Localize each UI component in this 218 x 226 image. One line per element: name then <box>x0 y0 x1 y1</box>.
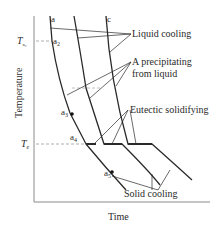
annotation-liquid-cooling: Liquid cooling <box>132 28 191 39</box>
curve-a <box>50 16 126 190</box>
leader-solid-3 <box>158 170 170 190</box>
temp-mark-te: Te <box>21 138 30 150</box>
curve-label-c: c <box>107 14 111 24</box>
annotation-eutectic: Eutectic solidifying <box>130 104 209 115</box>
label-a5: a5 <box>104 168 111 179</box>
leader-liquid-2 <box>78 34 131 38</box>
x-axis-label: Time <box>108 211 129 222</box>
curve-c <box>106 16 192 180</box>
leader-eutectic-3 <box>130 110 136 144</box>
label-a3: a3 <box>61 107 68 118</box>
temp-mark-ta2: Ta₂ <box>17 35 27 47</box>
cooling-curve-diagram: a c a2 a3 a4 a5 Ta₂ Te Temperature Time … <box>0 0 218 226</box>
label-a2: a2 <box>53 36 60 47</box>
leader-liquid-1 <box>50 28 131 34</box>
annotation-precipitating-line2: from liquid <box>132 68 177 79</box>
label-a4: a4 <box>70 132 77 143</box>
y-axis-label: Temperature <box>13 67 24 118</box>
leader-liquid-3 <box>110 34 131 52</box>
annotation-precipitating-line1: A precipitating <box>132 56 192 67</box>
curve-label-a: a <box>51 14 55 24</box>
point-a3 <box>70 112 74 116</box>
annotation-solid-cooling: Solid cooling <box>124 188 178 199</box>
